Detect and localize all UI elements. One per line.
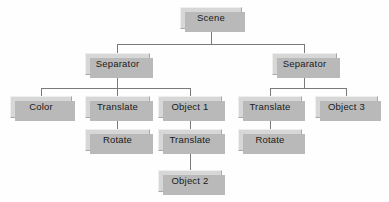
- node-translate-1[interactable]: Translate: [85, 96, 150, 118]
- connector-sep-l-drop-trans: [117, 88, 118, 96]
- connector-scene-bus: [117, 44, 305, 45]
- connector-scene-drop-right: [304, 44, 305, 53]
- node-label-separator-r: Separator: [283, 59, 327, 69]
- node-translate-3[interactable]: Translate: [158, 129, 222, 151]
- node-label-translate-2: Translate: [249, 102, 290, 112]
- node-scene[interactable]: Scene: [180, 7, 242, 29]
- node-rotate-2[interactable]: Rotate: [238, 129, 302, 151]
- node-label-object-1: Object 1: [172, 102, 209, 112]
- node-label-color: Color: [29, 102, 53, 112]
- node-separator-l[interactable]: Separator: [85, 53, 150, 75]
- connector-sep-r-drop-trans: [270, 88, 271, 96]
- node-label-object-3: Object 3: [328, 102, 365, 112]
- node-object-1[interactable]: Object 1: [158, 96, 222, 118]
- node-label-object-2: Object 2: [172, 176, 209, 186]
- connector-scene-drop-left: [117, 44, 118, 53]
- node-label-rotate-1: Rotate: [103, 135, 132, 145]
- connector-sep-r-bus: [270, 88, 347, 89]
- node-label-separator-l: Separator: [96, 59, 140, 69]
- node-label-rotate-2: Rotate: [255, 135, 284, 145]
- connector-sep-l-drop-obj1: [190, 88, 191, 96]
- node-separator-r[interactable]: Separator: [272, 53, 337, 75]
- node-object-3[interactable]: Object 3: [315, 96, 378, 118]
- node-translate-2[interactable]: Translate: [238, 96, 302, 118]
- connector-sep-r-drop-obj3: [346, 88, 347, 96]
- node-label-scene: Scene: [197, 13, 225, 23]
- node-object-2[interactable]: Object 2: [158, 170, 222, 192]
- node-label-translate-1: Translate: [97, 102, 138, 112]
- connector-sep-l-drop-color: [41, 88, 42, 96]
- scene-graph-diagram: SceneSeparatorSeparatorColorTranslateObj…: [0, 0, 389, 202]
- node-rotate-1[interactable]: Rotate: [85, 129, 150, 151]
- node-label-translate-3: Translate: [169, 135, 210, 145]
- connector-sep-l-bus: [41, 88, 190, 89]
- node-color[interactable]: Color: [10, 96, 72, 118]
